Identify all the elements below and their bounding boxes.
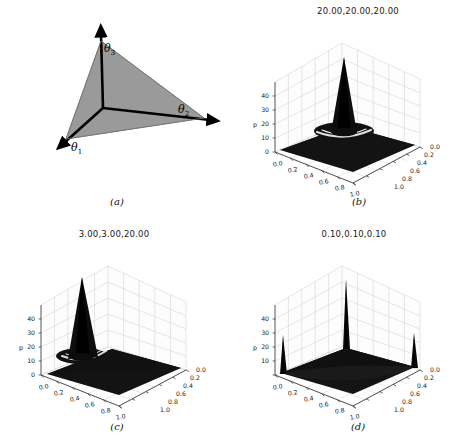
z-tick-20-d: 20 [261,343,269,350]
y-tick-3-d: 0.6 [410,390,420,397]
z-tick-20-c: 20 [27,343,35,350]
x-tick-4-d: 0.8 [334,406,345,415]
z-tick-40-b: 40 [261,92,269,99]
y-tick-0-b: 0.0 [430,143,440,150]
x-tick-0-b: 0.0 [272,159,283,168]
x-tick-2-c: 0.4 [69,394,80,403]
z-tick-30-d: 30 [261,329,269,336]
z-tick-0-b: 0 [265,148,269,155]
y-tick-2-c: 0.4 [183,382,193,389]
x-tick-2-d: 0.4 [303,394,314,403]
x-tick-5-c: 1.0 [115,412,126,421]
y-tick-5-b: 1.0 [394,183,404,190]
z-tick-0-c: 0 [31,371,35,378]
y-tick-5-d: 1.0 [394,406,404,413]
x-tick-3-b: 0.6 [318,177,329,186]
z-tick-20-b: 20 [261,120,269,127]
surface-plot-d: 10 20 30 40 p 0.0 0.2 0.4 0.6 0.8 1.0 [234,223,468,447]
y-tick-0-d: 0.0 [430,366,440,373]
y-tick-4-c: 0.8 [168,398,178,405]
axis-label-theta1: θ1 [71,141,82,156]
z-tick-30-b: 30 [261,106,269,113]
panel-caption-c: (c) [0,421,234,432]
x-tick-5-d: 1.0 [349,412,360,421]
x-tick-0-d: 0.0 [272,382,283,391]
y-tick-4-b: 0.8 [402,175,412,182]
x-tick-3-c: 0.6 [84,400,95,409]
panel-d-surface: 0.10,0.10,0.10 [234,223,468,447]
x-tick-1-b: 0.2 [287,165,298,174]
x-tick-2-b: 0.4 [303,171,314,180]
y-tick-1-d: 0.2 [424,374,434,381]
y-tick-3-b: 0.6 [410,167,420,174]
x-tick-0-c: 0.0 [38,382,49,391]
surface-plot-c: 0 10 20 30 40 p 0.0 0.2 0.4 0.6 0.8 1.0 [0,223,234,447]
panel-caption-d: (d) [234,421,468,432]
z-axis-label-b: p [253,121,257,129]
z-tick-40-d: 40 [261,315,269,322]
axis-label-theta3: θ3 [104,42,115,57]
x-tick-4-b: 0.8 [334,183,345,192]
panel-caption-b: (b) [234,196,468,207]
y-tick-0-c: 0.0 [196,366,206,373]
z-axis-label-c: p [19,344,23,352]
y-tick-1-c: 0.2 [190,374,200,381]
panel-a-simplex: θ3 θ2 θ1 (a) [0,0,234,223]
x-tick-4-c: 0.8 [100,406,111,415]
z-tick-10-d: 10 [261,357,269,364]
panel-c-surface: 3.00,3.00,20.00 [0,223,234,447]
z-tick-30-c: 30 [27,329,35,336]
x-tick-1-d: 0.2 [287,388,298,397]
panel-b-surface: 20.00,20.00,20.00 [234,0,468,223]
x-tick-3-d: 0.6 [318,400,329,409]
z-tick-10-c: 10 [27,357,35,364]
panel-caption-a: (a) [0,196,234,207]
y-tick-4-d: 0.8 [402,398,412,405]
y-tick-2-b: 0.4 [417,159,427,166]
z-tick-10-b: 10 [261,134,269,141]
surface-plot-b: 0 10 20 30 40 p 0.0 0.2 0.4 0.6 0.8 1.0 [234,0,468,223]
figure-panel-grid: θ3 θ2 θ1 (a) 20.00,20.00,20.00 [0,0,468,447]
y-tick-2-d: 0.4 [417,382,427,389]
z-tick-40-c: 40 [27,315,35,322]
y-tick-1-b: 0.2 [424,151,434,158]
z-axis-label-d: p [253,344,257,352]
y-tick-5-c: 1.0 [160,406,170,413]
y-tick-3-c: 0.6 [176,390,186,397]
simplex-diagram: θ3 θ2 θ1 [0,0,234,223]
x-tick-1-c: 0.2 [53,388,64,397]
